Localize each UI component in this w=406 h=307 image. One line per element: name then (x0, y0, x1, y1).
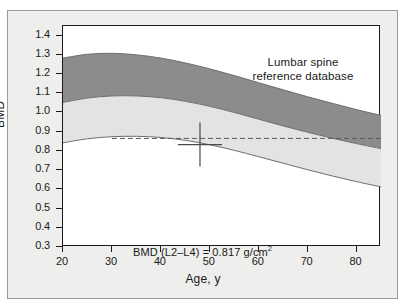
y-tick-label: 0.3 (24, 239, 50, 251)
x-tick-label: 70 (292, 255, 322, 267)
y-tick-label: 0.5 (24, 201, 50, 213)
y-tick-label: 1.0 (24, 104, 50, 116)
y-tick-label: 0.7 (24, 162, 50, 174)
y-tick-label: 1.2 (24, 66, 50, 78)
x-axis-title: Age, y (0, 272, 406, 286)
bmd-value-annotation-superscript: 2 (268, 244, 272, 253)
y-axis-title: BMD (0, 100, 7, 128)
x-tick-label: 30 (96, 255, 126, 267)
bmd-value-annotation-text: BMD (L2–L4) = 0.817 g/cm (133, 246, 268, 258)
x-tick-label: 20 (47, 255, 77, 267)
bmd-value-annotation: BMD (L2–L4) = 0.817 g/cm2 (133, 244, 272, 258)
chart-title-line-1: Lumbar spine (213, 55, 393, 69)
y-tick-label: 0.6 (24, 181, 50, 193)
y-tick-label: 1.1 (24, 85, 50, 97)
y-tick-label: 0.9 (24, 124, 50, 136)
y-tick-label: 1.4 (24, 28, 50, 40)
chart-title: Lumbar spine reference database (213, 55, 393, 83)
x-tick-label: 80 (341, 255, 371, 267)
y-tick-label: 1.3 (24, 47, 50, 59)
chart-title-line-2: reference database (213, 69, 393, 83)
y-tick-label: 0.4 (24, 220, 50, 232)
plot-area: Lumbar spine reference database BMD (L2–… (62, 25, 380, 246)
figure-container: BMD 0.30.40.50.60.70.80.91.01.11.21.31.4… (0, 0, 406, 307)
y-tick-label: 0.8 (24, 143, 50, 155)
